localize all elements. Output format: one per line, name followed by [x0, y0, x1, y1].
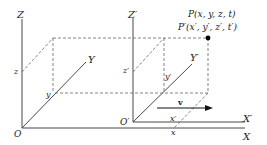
projection-lines [22, 38, 208, 128]
label-origin: O [14, 129, 22, 139]
label-point-p: P(x, y, z, t) [187, 9, 236, 19]
label-x-prime: X′ [242, 113, 253, 124]
label-origin-prime: O′ [120, 117, 129, 127]
point-p [206, 36, 211, 41]
reference-frames-diagram: Z Y O X Z′ Y′ O′ X′ z y z′ y′ x′ x v P(x… [0, 0, 267, 145]
label-z-prime: Z′ [127, 9, 138, 20]
label-coord-x-prime: x′ [170, 114, 177, 123]
label-coord-y: y [45, 90, 51, 99]
y-axis [22, 62, 86, 128]
label-z: Z [16, 9, 25, 20]
label-coord-z: z [13, 67, 19, 76]
arrowhead-icon [205, 105, 213, 111]
label-coord-x: x [171, 128, 176, 137]
label-velocity: v [177, 97, 183, 107]
label-x: X [242, 131, 251, 142]
label-coord-y-prime: y′ [164, 72, 172, 81]
label-y: Y [88, 54, 96, 65]
label-y-prime: Y′ [190, 52, 200, 63]
label-coord-z-prime: z′ [122, 66, 129, 75]
label-point-p-prime: P′(x′, y′, z′, t′) [177, 22, 237, 32]
